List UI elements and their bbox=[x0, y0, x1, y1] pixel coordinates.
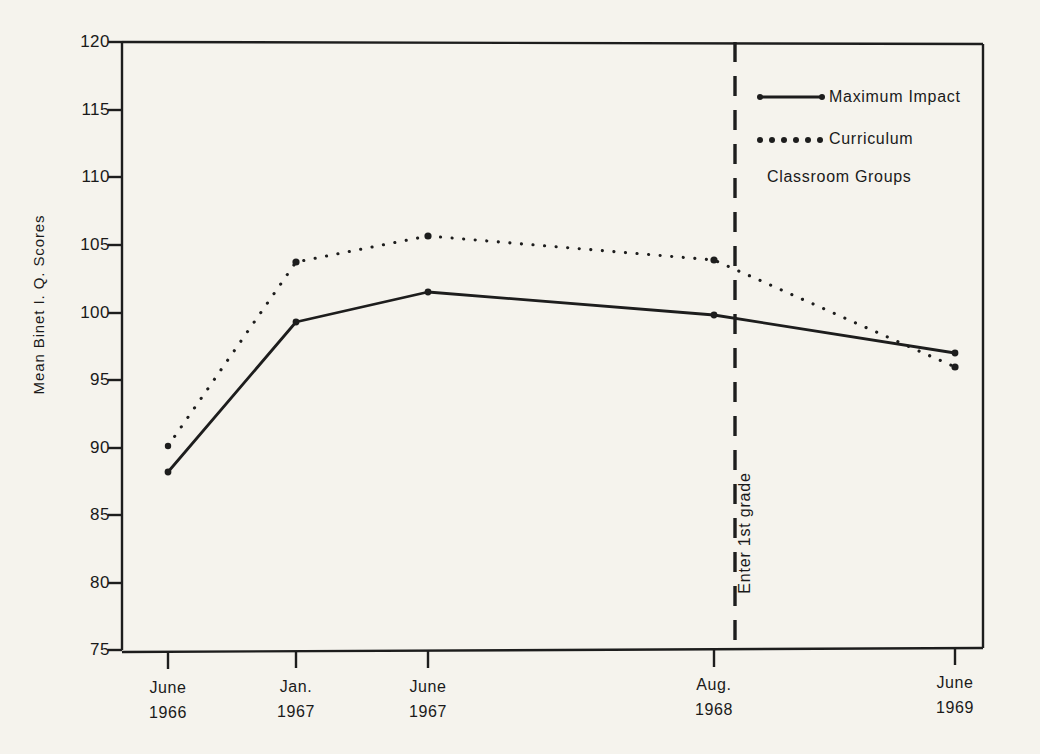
iq-scores-line-chart: Mean Binet I. Q. Scores 120 115 110 105 … bbox=[0, 0, 1040, 754]
solid-line-key-icon bbox=[757, 90, 829, 104]
point-curriculum-june-1966 bbox=[165, 443, 171, 449]
x-tick-label-line1: Aug. bbox=[695, 672, 733, 697]
legend-label-curriculum: Curriculum bbox=[829, 130, 913, 148]
point-max-impact-june-1966 bbox=[165, 469, 172, 476]
legend-label-maximum-impact: Maximum Impact bbox=[829, 88, 961, 106]
point-max-impact-jan-1967 bbox=[293, 319, 300, 326]
axis-bottom bbox=[122, 648, 983, 652]
legend-item-maximum-impact: Maximum Impact bbox=[757, 76, 997, 118]
point-max-impact-june-1967 bbox=[425, 289, 432, 296]
x-tick-label-june-1966: June 1966 bbox=[149, 675, 187, 725]
series-curriculum bbox=[165, 232, 959, 449]
x-tick-label-line1: June bbox=[409, 674, 447, 699]
x-tick-label-june-1969: June 1969 bbox=[936, 670, 974, 720]
x-tick-label-june-1967: June 1967 bbox=[409, 674, 447, 724]
x-tick-label-line1: Jan. bbox=[277, 674, 315, 699]
x-tick-label-line2: 1968 bbox=[695, 697, 733, 722]
point-curriculum-aug-1968 bbox=[710, 256, 717, 263]
enter-1st-grade-label: Enter 1st grade bbox=[736, 433, 754, 633]
axis-top bbox=[122, 42, 983, 44]
point-max-impact-june-1969 bbox=[952, 350, 959, 357]
dotted-line-key-icon bbox=[757, 132, 829, 146]
legend-caption: Classroom Groups bbox=[767, 168, 997, 186]
point-max-impact-aug-1968 bbox=[711, 312, 718, 319]
y-tick-marks bbox=[108, 42, 122, 650]
point-curriculum-june-1969 bbox=[951, 363, 958, 370]
series-maximum-impact bbox=[165, 289, 959, 476]
x-tick-label-line2: 1967 bbox=[277, 699, 315, 724]
x-tick-label-line2: 1966 bbox=[149, 700, 187, 725]
x-tick-label-line2: 1969 bbox=[936, 695, 974, 720]
chart-legend: Maximum Impact Curriculum Classroom Grou… bbox=[757, 76, 997, 186]
legend-item-curriculum: Curriculum bbox=[757, 118, 997, 160]
x-tick-label-aug-1968: Aug. 1968 bbox=[695, 672, 733, 722]
point-curriculum-june-1967 bbox=[424, 232, 431, 239]
point-curriculum-jan-1967 bbox=[292, 258, 299, 265]
x-tick-label-line2: 1967 bbox=[409, 699, 447, 724]
x-tick-label-jan-1967: Jan. 1967 bbox=[277, 674, 315, 724]
x-tick-label-line1: June bbox=[936, 670, 974, 695]
x-tick-label-line1: June bbox=[149, 675, 187, 700]
